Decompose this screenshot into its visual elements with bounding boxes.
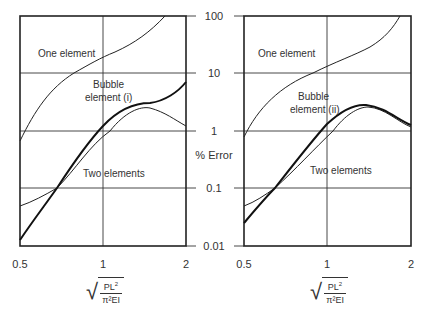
x-tick: 0.5 — [12, 258, 27, 270]
radical-icon: √ — [86, 279, 98, 304]
label-one-element: One element — [258, 48, 315, 59]
series-one-element — [244, 16, 400, 137]
x-tick: 1 — [100, 258, 106, 270]
x-tick: 0.5 — [236, 258, 251, 270]
series-two-elements — [244, 107, 411, 206]
label-bubble-element: element (ii) — [290, 104, 339, 115]
label-two-elements: Two elements — [83, 168, 145, 179]
label-one-element: One element — [38, 48, 95, 59]
y-axis-title: % Error — [195, 149, 233, 161]
label-bubble-element: element (i) — [85, 92, 132, 103]
y-tick: 10 — [208, 67, 220, 79]
x-axis-label-right: √PL2π²EI — [306, 277, 352, 306]
radical-icon: √ — [310, 279, 322, 304]
x-tick: 2 — [183, 258, 189, 270]
y-tick: 1 — [211, 125, 217, 137]
chart-canvas: One element Bubble element (i) Two eleme… — [0, 0, 424, 309]
x-tick: 2 — [408, 258, 414, 270]
y-tick: 0.1 — [206, 182, 221, 194]
label-two-elements: Two elements — [310, 165, 372, 176]
x-tick: 1 — [324, 258, 330, 270]
label-bubble: Bubble — [298, 91, 330, 102]
series-bubble-element-ii — [244, 105, 411, 223]
x-axis-label-left: √PL2π²EI — [82, 277, 128, 306]
y-axis-labels: 100 10 1 % Error 0.1 0.01 — [195, 10, 233, 252]
y-tick: 0.01 — [203, 240, 224, 252]
y-tick: 100 — [205, 10, 223, 22]
right-panel: One element Bubble element (ii) Two elem… — [234, 16, 414, 270]
label-bubble: Bubble — [93, 79, 125, 90]
left-panel: One element Bubble element (i) Two eleme… — [12, 16, 196, 270]
